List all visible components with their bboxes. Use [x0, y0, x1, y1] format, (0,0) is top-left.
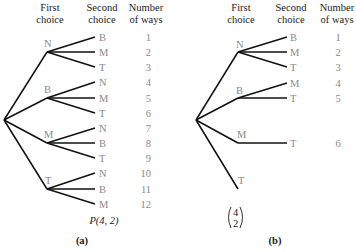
header-second-choice-line1: Second [276, 2, 308, 13]
second-choice-node: N [99, 168, 107, 179]
second-choice-node: M [290, 47, 300, 58]
header-first-choice-line1: First [231, 2, 250, 13]
edge [47, 143, 95, 158]
edge [47, 189, 95, 204]
second-choice-node: T [290, 93, 297, 104]
binomial-bottom: 2 [233, 218, 238, 229]
second-choice-node: M [99, 93, 109, 104]
header-first-choice-line1: First [40, 2, 59, 13]
edge [238, 52, 287, 67]
ways-count: 4 [335, 78, 341, 89]
edge [47, 52, 95, 67]
header-number-of-ways-line1: Number [129, 2, 164, 13]
ways-count: 2 [146, 47, 151, 58]
header-second-choice-line2: choice [277, 14, 305, 25]
ways-count: 12 [141, 199, 152, 210]
second-choice-node: B [99, 32, 106, 43]
first-choice-node: T [238, 175, 245, 186]
ways-count: 6 [146, 108, 151, 119]
second-choice-node: T [290, 138, 297, 149]
edge [47, 173, 95, 189]
header-number-of-ways-line2: of ways [130, 14, 163, 25]
first-choice-node: B [44, 84, 51, 95]
ways-count: 11 [141, 184, 151, 195]
second-choice-node: B [290, 32, 297, 43]
header-second-choice-line2: choice [88, 14, 116, 25]
header-number-of-ways-line2: of ways [321, 14, 354, 25]
first-choice-node: N [236, 39, 244, 50]
second-choice-node: T [290, 62, 297, 73]
first-choice-node: T [45, 175, 52, 186]
second-choice-node: B [99, 184, 106, 195]
panel-b: First choice Second choice Number of way… [196, 2, 355, 247]
edge [47, 98, 95, 113]
ways-count: 6 [335, 138, 340, 149]
permutation-formula: P(4, 2) [88, 215, 119, 227]
ways-count: 8 [146, 138, 151, 149]
caption-a: (a) [76, 235, 89, 247]
edge [238, 83, 287, 98]
header-second-choice-line1: Second [87, 2, 119, 13]
header-first-choice-line2: choice [36, 14, 64, 25]
edge [47, 37, 95, 52]
edge [47, 82, 95, 98]
ways-count: 1 [335, 32, 340, 43]
second-choice-node: T [99, 62, 106, 73]
header-number-of-ways-line1: Number [320, 2, 355, 13]
ways-count: 4 [146, 77, 152, 88]
first-choice-node: M [44, 129, 54, 140]
binomial-top: 4 [233, 207, 239, 218]
ways-count: 9 [146, 153, 151, 164]
ways-count: 7 [146, 123, 151, 134]
binomial-coefficient: 4 2 [229, 207, 243, 229]
right-paren [240, 207, 243, 228]
second-choice-node: B [99, 138, 106, 149]
second-choice-node: N [99, 123, 107, 134]
second-choice-node: N [99, 77, 107, 88]
second-choice-node: T [99, 108, 106, 119]
caption-b: (b) [269, 235, 282, 247]
ways-count: 2 [335, 47, 340, 58]
second-choice-node: M [290, 78, 300, 89]
tree-diagram-figure: First choice Second choice Number of way… [0, 0, 356, 252]
first-choice-node: N [44, 38, 52, 49]
panel-a: First choice Second choice Number of way… [4, 2, 164, 247]
ways-count: 5 [146, 93, 151, 104]
ways-count: 3 [146, 62, 151, 73]
ways-count: 10 [141, 168, 152, 179]
header-first-choice-line2: choice [227, 14, 255, 25]
edge [238, 37, 287, 52]
edge-root-T [196, 120, 238, 189]
second-choice-node: M [99, 47, 109, 58]
ways-count: 3 [335, 62, 340, 73]
edge-root-T [4, 120, 47, 189]
left-paren [229, 207, 232, 228]
ways-count: 5 [335, 93, 340, 104]
first-choice-node: M [237, 129, 247, 140]
first-choice-node: B [236, 85, 243, 96]
second-choice-node: M [99, 199, 109, 210]
second-choice-node: T [99, 153, 106, 164]
edge [47, 128, 95, 143]
ways-count: 1 [146, 32, 151, 43]
